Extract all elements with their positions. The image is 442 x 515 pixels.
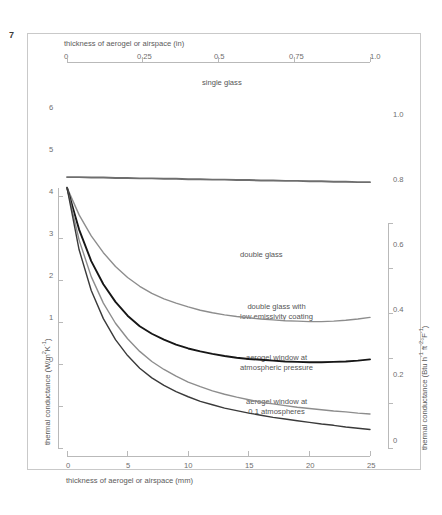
figure-container: 7 thickness of aerogel or airspace (in) …	[0, 0, 442, 515]
chart-plot-area	[0, 0, 442, 515]
